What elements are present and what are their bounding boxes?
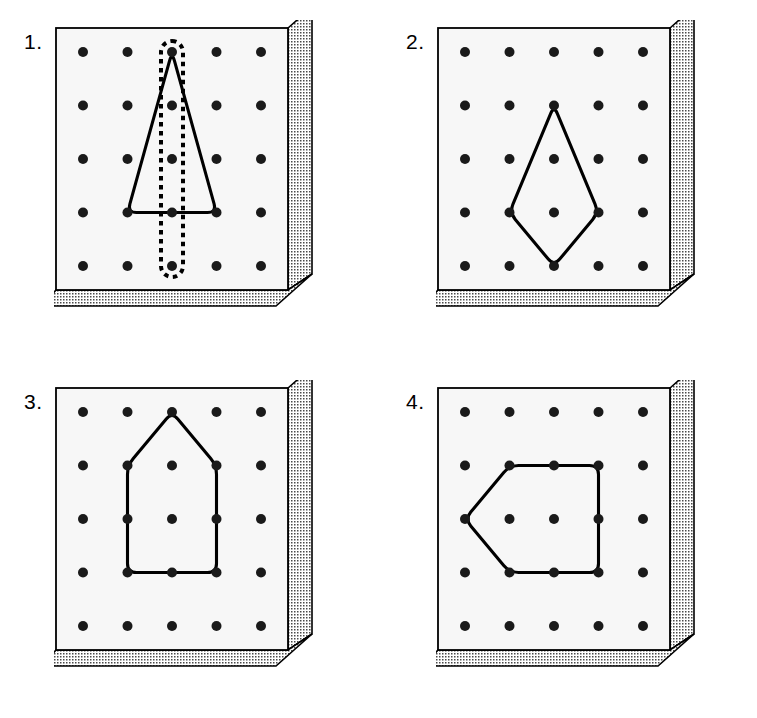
peg-r5-c3 <box>167 621 177 631</box>
peg-r5-c2 <box>505 261 515 271</box>
geoboard-panel-3: 3. <box>14 380 384 718</box>
peg-r4-c4 <box>212 208 222 218</box>
peg-r2-c1 <box>78 101 88 111</box>
peg-r5-c4 <box>594 621 604 631</box>
peg-r5-c5 <box>638 621 648 631</box>
peg-r5-c5 <box>256 261 266 271</box>
peg-r5-c4 <box>212 621 222 631</box>
peg-r4-c1 <box>78 208 88 218</box>
peg-r5-c1 <box>460 621 470 631</box>
peg-r2-c5 <box>638 101 648 111</box>
peg-r3-c1 <box>460 154 470 164</box>
peg-r3-c4 <box>212 154 222 164</box>
peg-r3-c3 <box>549 514 559 524</box>
peg-r1-c1 <box>78 47 88 57</box>
geoboard-svg-2 <box>436 20 746 350</box>
geoboard-panel-4: 4. <box>396 380 757 718</box>
geoboard-3 <box>54 380 364 710</box>
peg-r1-c5 <box>256 407 266 417</box>
peg-r4-c2 <box>123 568 133 578</box>
peg-r3-c1 <box>460 514 470 524</box>
peg-r1-c4 <box>594 47 604 57</box>
peg-r2-c1 <box>460 101 470 111</box>
geoboard-2 <box>436 20 746 350</box>
peg-r3-c5 <box>256 514 266 524</box>
peg-r1-c4 <box>212 407 222 417</box>
peg-r2-c4 <box>594 101 604 111</box>
peg-r2-c1 <box>78 461 88 471</box>
peg-r4-c2 <box>505 208 515 218</box>
worksheet-page: 1. 2. 3. 4. <box>0 0 757 718</box>
peg-r1-c2 <box>505 47 515 57</box>
peg-r4-c3 <box>167 208 177 218</box>
peg-r5-c1 <box>78 621 88 631</box>
peg-r5-c5 <box>638 261 648 271</box>
board-right-edge <box>288 380 312 650</box>
peg-r2-c4 <box>594 461 604 471</box>
peg-r5-c4 <box>212 261 222 271</box>
peg-r5-c1 <box>78 261 88 271</box>
peg-r2-c2 <box>123 101 133 111</box>
peg-r1-c2 <box>505 407 515 417</box>
peg-r4-c5 <box>256 208 266 218</box>
peg-r3-c2 <box>505 154 515 164</box>
peg-r4-c1 <box>78 568 88 578</box>
geoboard-1 <box>54 20 364 350</box>
peg-r3-c4 <box>594 154 604 164</box>
peg-r1-c1 <box>78 407 88 417</box>
peg-r4-c4 <box>212 568 222 578</box>
peg-r1-c5 <box>638 407 648 417</box>
peg-r2-c5 <box>638 461 648 471</box>
peg-r5-c1 <box>460 261 470 271</box>
peg-r4-c5 <box>638 208 648 218</box>
peg-r3-c3 <box>549 154 559 164</box>
peg-r3-c3 <box>167 154 177 164</box>
geoboard-svg-4 <box>436 380 746 710</box>
peg-r4-c4 <box>594 568 604 578</box>
peg-r3-c2 <box>505 514 515 524</box>
peg-r4-c5 <box>638 568 648 578</box>
peg-r5-c3 <box>549 621 559 631</box>
peg-r5-c4 <box>594 261 604 271</box>
peg-r1-c4 <box>212 47 222 57</box>
peg-r2-c2 <box>505 461 515 471</box>
peg-r5-c5 <box>256 621 266 631</box>
geoboard-4 <box>436 380 746 710</box>
geoboard-svg-3 <box>54 380 364 710</box>
peg-r2-c1 <box>460 461 470 471</box>
peg-r4-c1 <box>460 208 470 218</box>
peg-r1-c1 <box>460 407 470 417</box>
board-right-edge <box>670 380 694 650</box>
peg-r1-c3 <box>549 47 559 57</box>
peg-r3-c1 <box>78 154 88 164</box>
peg-r5-c2 <box>123 261 133 271</box>
board-right-edge <box>288 20 312 290</box>
peg-r1-c5 <box>638 47 648 57</box>
peg-r3-c1 <box>78 514 88 524</box>
panel-number-2: 2. <box>406 31 425 52</box>
panel-number-1: 1. <box>24 31 43 52</box>
peg-r2-c2 <box>505 101 515 111</box>
peg-r2-c3 <box>167 461 177 471</box>
board-right-edge <box>670 20 694 290</box>
peg-r1-c2 <box>123 47 133 57</box>
peg-r5-c3 <box>549 261 559 271</box>
peg-r2-c5 <box>256 101 266 111</box>
peg-r2-c4 <box>212 101 222 111</box>
peg-r4-c5 <box>256 568 266 578</box>
peg-r4-c2 <box>505 568 515 578</box>
peg-r4-c3 <box>167 568 177 578</box>
peg-r4-c4 <box>594 208 604 218</box>
geoboard-svg-1 <box>54 20 364 350</box>
peg-r5-c2 <box>505 621 515 631</box>
peg-r1-c1 <box>460 47 470 57</box>
peg-r5-c3 <box>167 261 177 271</box>
peg-r3-c5 <box>638 154 648 164</box>
geoboard-panel-1: 1. <box>14 20 384 370</box>
peg-r3-c2 <box>123 514 133 524</box>
panel-number-3: 3. <box>24 391 43 412</box>
peg-r5-c2 <box>123 621 133 631</box>
peg-r1-c3 <box>167 407 177 417</box>
peg-r3-c5 <box>256 154 266 164</box>
peg-r4-c3 <box>549 208 559 218</box>
